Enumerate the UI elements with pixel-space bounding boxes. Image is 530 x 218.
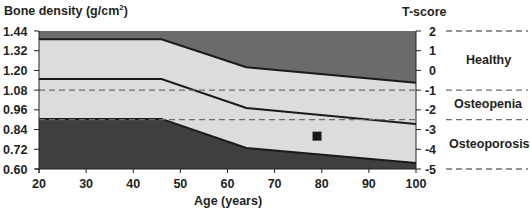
x-tick-label: 100 [406, 177, 427, 191]
y2-tick-label: -1 [425, 84, 436, 98]
category-healthy: Healthy [466, 53, 511, 67]
y-tick-label: 0.84 [3, 123, 27, 137]
y2-tick-label: -4 [425, 143, 436, 157]
y-tick-label: 0.72 [3, 143, 27, 157]
y-axis-title: Bone density (g/cm2) [4, 3, 128, 18]
category-osteoporosis: Osteoporosis [449, 137, 530, 151]
x-tick-label: 50 [173, 177, 187, 191]
x-tick-label: 60 [221, 177, 235, 191]
y-axis-title-base: Bone density (g/cm [4, 4, 119, 18]
y2-tick-label: 2 [429, 25, 436, 39]
x-tick-label: 80 [315, 177, 329, 191]
y2-tick-label: -3 [425, 123, 436, 137]
y-axis-title-close: ) [124, 4, 128, 18]
bone-density-chart: 1.441.321.201.080.960.840.720.6020304050… [0, 0, 530, 218]
y-tick-label: 0.96 [3, 103, 27, 117]
y-tick-label: 1.44 [3, 25, 27, 39]
patient-data-point [313, 132, 322, 141]
y2-tick-label: 1 [429, 44, 436, 58]
y-tick-label: 1.20 [3, 64, 27, 78]
x-tick-label: 30 [79, 177, 93, 191]
x-axis-title: Age (years) [194, 194, 262, 208]
y-tick-label: 0.60 [3, 163, 27, 177]
y-tick-label: 1.32 [3, 44, 27, 58]
y2-tick-label: 0 [429, 64, 436, 78]
x-tick-label: 40 [126, 177, 140, 191]
y2-tick-label: -5 [425, 163, 436, 177]
x-tick-label: 90 [362, 177, 376, 191]
category-osteopenia: Osteopenia [454, 97, 522, 111]
y-tick-label: 1.08 [3, 84, 27, 98]
y2-axis-title: T-score [402, 5, 446, 19]
x-tick-label: 20 [32, 177, 46, 191]
x-tick-label: 70 [268, 177, 282, 191]
y2-tick-label: -2 [425, 103, 436, 117]
